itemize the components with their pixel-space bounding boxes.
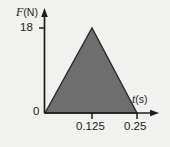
y-tick-label-18: 18 (20, 22, 33, 34)
x-axis-label: t(s) (132, 93, 148, 105)
x-axis-arrowhead (150, 110, 159, 117)
x-tick-label-025: 0.25 (124, 121, 146, 133)
x-axis-unit: (s) (135, 93, 147, 105)
force-time-graph-figure: F(N) 18 0 0.125 0.25 t(s) (0, 0, 170, 147)
y-axis-unit: (N) (23, 6, 38, 18)
impulse-triangle-area (45, 28, 137, 113)
x-tick-label-0125: 0.125 (76, 121, 105, 133)
origin-label: 0 (33, 106, 39, 118)
y-axis-arrowhead (41, 8, 48, 17)
y-axis-label: F(N) (16, 6, 38, 18)
